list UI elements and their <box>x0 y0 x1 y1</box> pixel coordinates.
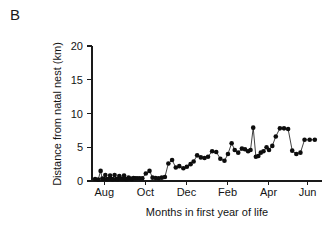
data-point <box>307 138 312 143</box>
data-point <box>261 149 266 154</box>
data-point <box>177 164 182 169</box>
data-point <box>313 138 318 143</box>
chart-figure: 05101520 AugOctDecFebAprJun Months in fi… <box>0 0 329 229</box>
data-point <box>214 150 219 155</box>
x-tick-label-Oct: Oct <box>137 186 154 198</box>
data-point <box>103 173 108 178</box>
x-tick-label-Dec: Dec <box>177 186 197 198</box>
data-point <box>270 144 275 149</box>
data-point <box>229 141 234 146</box>
series-markers <box>93 125 317 182</box>
data-point <box>248 148 253 153</box>
data-point <box>185 165 190 170</box>
data-point <box>298 150 303 155</box>
data-point <box>236 150 241 155</box>
data-point <box>210 149 215 154</box>
x-tick-label-Jun: Jun <box>299 186 317 198</box>
x-axis-title: Months in first year of life <box>146 206 268 218</box>
y-tick-label-0: 0 <box>77 175 83 187</box>
series-line-path <box>95 128 315 180</box>
data-point <box>302 138 307 143</box>
x-tick-label-Apr: Apr <box>260 186 277 198</box>
data-point <box>286 127 291 132</box>
y-tick-label-20: 20 <box>71 40 83 52</box>
data-point <box>191 159 196 164</box>
x-tick-label-Aug: Aug <box>95 186 115 198</box>
data-point <box>218 156 223 161</box>
data-point <box>112 173 117 178</box>
y-tick-label-5: 5 <box>77 141 83 153</box>
data-point <box>98 169 103 174</box>
data-point <box>290 148 295 153</box>
distance-from-nest-line-chart: 05101520 AugOctDecFebAprJun Months in fi… <box>0 0 329 229</box>
y-tick-label-15: 15 <box>71 74 83 86</box>
x-tick-label-Feb: Feb <box>218 186 237 198</box>
y-axis-tick-labels: 05101520 <box>71 40 83 187</box>
data-point <box>147 169 152 174</box>
data-point <box>251 125 256 130</box>
data-point <box>273 134 278 139</box>
data-point <box>206 154 211 159</box>
data-point <box>163 175 168 180</box>
data-point <box>267 148 272 153</box>
data-point <box>166 161 171 166</box>
x-axis-tick-labels: AugOctDecFebAprJun <box>95 186 317 198</box>
y-tick-label-10: 10 <box>71 108 83 120</box>
data-point <box>144 171 149 176</box>
data-point <box>170 158 175 163</box>
axes-group <box>92 46 322 181</box>
data-point <box>140 176 145 181</box>
data-point <box>222 158 227 163</box>
x-axis-ticks <box>104 181 307 185</box>
data-point <box>294 152 299 157</box>
data-point <box>278 126 283 131</box>
y-axis-title: Distance from natal nest (km) <box>51 42 63 186</box>
data-point <box>226 152 231 157</box>
y-axis-ticks <box>87 46 92 181</box>
data-point <box>282 126 287 131</box>
data-point <box>96 177 101 182</box>
